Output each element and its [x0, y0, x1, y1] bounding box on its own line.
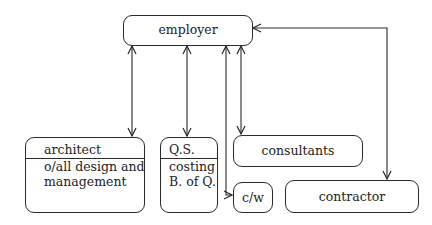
employer-label: employer [124, 23, 252, 37]
architect-line-2: management [44, 175, 127, 189]
edge-employer-cw [226, 46, 232, 195]
architect-line-1: o/all design and [44, 160, 145, 174]
qs-line-2: B. of Q. [169, 175, 216, 189]
qs-line-1: costing [169, 160, 215, 174]
cw-label: c/w [234, 191, 272, 205]
node-consultants: consultants [233, 135, 363, 167]
qs-title: Q.S. [169, 143, 195, 157]
node-qs: Q.S. costing B. of Q. [160, 137, 218, 213]
node-employer: employer [123, 15, 253, 46]
node-architect: architect o/all design and management [25, 137, 145, 213]
contractor-label: contractor [286, 190, 418, 204]
node-contractor: contractor [285, 180, 419, 213]
node-cw: c/w [233, 182, 273, 213]
architect-title: architect [44, 143, 101, 157]
consultants-label: consultants [234, 144, 362, 158]
